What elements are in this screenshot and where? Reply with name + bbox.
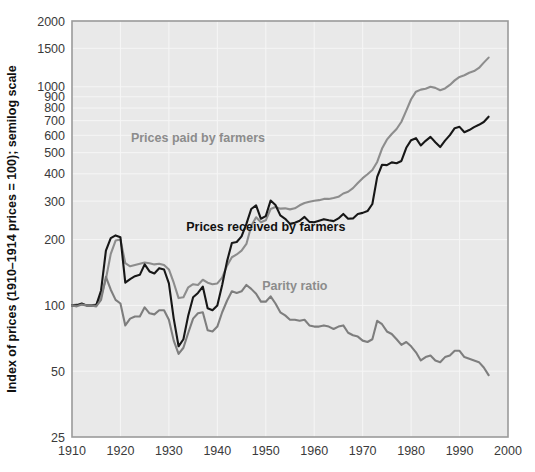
x-axis-tick-label: 1980 — [397, 444, 425, 458]
y-axis-tick-label: 300 — [44, 195, 65, 209]
x-axis-tick-label: 1960 — [300, 444, 328, 458]
series-annotation-label: Prices paid by farmers — [131, 131, 265, 145]
x-axis-tick-label: 2000 — [494, 444, 522, 458]
x-axis-tick-label: 1940 — [203, 444, 231, 458]
y-axis-tick-label: 500 — [44, 146, 65, 160]
y-axis-tick-label: 25 — [51, 431, 65, 445]
y-axis-tick-label: 1500 — [37, 42, 65, 56]
y-axis-tick-label: 200 — [44, 233, 65, 247]
y-axis-tick-label: 100 — [44, 299, 65, 313]
chart-container: 2550100200300400500600700800900100015002… — [0, 0, 535, 472]
y-axis-title: Index of prices (1910–1914 prices = 100)… — [5, 65, 19, 393]
y-axis-tick-label: 50 — [51, 365, 65, 379]
x-axis-tick-label: 1950 — [252, 444, 280, 458]
x-axis-tick-label: 1990 — [446, 444, 474, 458]
y-axis-tick-label: 400 — [44, 167, 65, 181]
y-axis-tick-label: 700 — [44, 114, 65, 128]
series-annotation-label: Prices received by farmers — [186, 220, 345, 234]
y-axis-tick-label: 1000 — [37, 80, 65, 94]
farm-price-index-chart: 2550100200300400500600700800900100015002… — [0, 0, 535, 472]
x-axis-tick-label: 1970 — [349, 444, 377, 458]
y-axis-tick-label: 600 — [44, 129, 65, 143]
x-axis-tick-label: 1920 — [107, 444, 135, 458]
x-axis-tick-label: 1910 — [58, 444, 86, 458]
y-axis-tick-label: 2000 — [37, 15, 65, 29]
x-axis-tick-label: 1930 — [155, 444, 183, 458]
series-annotation-label: Parity ratio — [262, 279, 328, 293]
